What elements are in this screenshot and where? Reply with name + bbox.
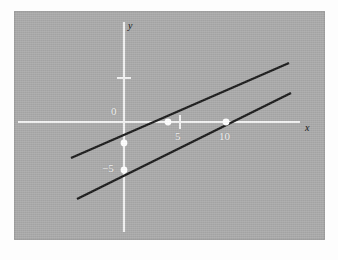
y-axis-label: y — [128, 21, 132, 31]
x-axis-label: x — [305, 123, 309, 133]
label-y-minus-five: −5 — [102, 163, 114, 174]
label-x-five: 5 — [175, 131, 181, 142]
label-origin: 0 — [111, 106, 117, 117]
plot-graphics — [0, 0, 338, 260]
point-line1-x-intercept — [165, 119, 172, 126]
point-line1-y-intercept — [121, 140, 128, 147]
figure-canvas: 0 5 10 −5 y x — [0, 0, 338, 260]
point-line2-x-intercept — [223, 119, 230, 126]
point-line2-y-intercept — [121, 167, 128, 174]
label-x-ten: 10 — [219, 131, 230, 142]
